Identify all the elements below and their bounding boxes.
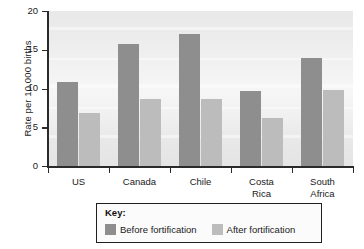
legend-label: After fortification	[227, 224, 296, 235]
bar-south-africa-after	[323, 90, 344, 166]
y-tick-5	[42, 127, 48, 128]
legend-item-before-fortification: Before fortification	[105, 224, 197, 235]
x-tick-2	[170, 167, 171, 173]
bar-chile-before	[179, 34, 200, 166]
x-axis-line	[47, 166, 354, 168]
y-tick-label-0: 0	[12, 161, 38, 171]
x-tick-4	[292, 167, 293, 173]
y-tick-label-5: 5	[12, 122, 38, 132]
legend-key-box: Key: Before fortificationAfter fortifica…	[96, 203, 322, 243]
bar-south-africa-before	[301, 58, 322, 167]
x-tick-0	[48, 167, 49, 173]
bar-canada-after	[140, 99, 161, 166]
category-label-chile: Chile	[170, 176, 231, 188]
y-tick-label-10: 10	[12, 83, 38, 93]
bar-costa-rica-after	[262, 118, 283, 166]
legend-title: Key:	[105, 207, 126, 218]
legend-label: Before fortification	[120, 224, 197, 235]
bar-chart-figure: Rate per 10,000 births 05101520 USCanada…	[0, 0, 364, 249]
legend-swatch-icon	[212, 224, 223, 235]
bar-us-before	[57, 82, 78, 166]
x-tick-5	[353, 167, 354, 173]
category-label-us: US	[48, 176, 109, 188]
x-tick-3	[231, 167, 232, 173]
bar-chile-after	[201, 99, 222, 166]
plot-area	[48, 11, 353, 166]
y-tick-15	[42, 50, 48, 51]
legend-swatch-icon	[105, 224, 116, 235]
bar-costa-rica-before	[240, 91, 261, 166]
y-tick-label-15: 15	[12, 44, 38, 54]
bar-canada-before	[118, 44, 139, 166]
y-tick-20	[42, 11, 48, 12]
legend-items: Before fortificationAfter fortification	[105, 224, 305, 235]
y-tick-10	[42, 89, 48, 90]
category-label-canada: Canada	[109, 176, 170, 188]
legend-item-after-fortification: After fortification	[212, 224, 296, 235]
bar-us-after	[79, 113, 100, 166]
plot-scan-band	[48, 27, 353, 30]
category-label-costa-rica: Costa Rica	[231, 176, 292, 199]
category-label-south-africa: South Africa	[292, 176, 353, 199]
y-tick-label-20: 20	[12, 6, 38, 16]
plot-wrap	[48, 11, 353, 166]
x-tick-1	[109, 167, 110, 173]
